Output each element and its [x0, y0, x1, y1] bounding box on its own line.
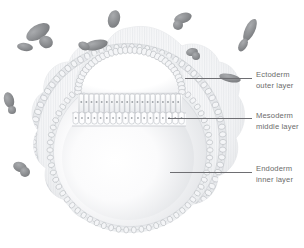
mesoderm-cell [145, 94, 150, 113]
mesoderm-cell [140, 94, 145, 113]
ectoderm-cell [83, 224, 91, 232]
ectoderm-cell [220, 139, 227, 144]
mesoderm-cell [115, 94, 120, 113]
mesoderm-cell [125, 94, 130, 113]
endoderm-columnar-cell [98, 112, 103, 124]
ectoderm-cell [36, 176, 44, 183]
migrating-cell [20, 167, 30, 177]
ectoderm-cell [144, 231, 150, 239]
endoderm-columnar-cell [117, 112, 122, 124]
endoderm-cell [47, 140, 54, 145]
endoderm-columnar-cell [73, 112, 78, 124]
endoderm-cell [47, 148, 53, 153]
mesoderm-columnar-band [78, 94, 182, 113]
mesoderm-cell [171, 94, 176, 113]
figure-canvas: Ectoderm outer layer Mesoderm middle lay… [0, 0, 304, 248]
ectoderm-cell [114, 233, 120, 240]
ectoderm-cell [151, 229, 158, 237]
ectoderm-cell [30, 131, 37, 137]
endoderm-cell [124, 227, 129, 233]
mesoderm-cell [79, 94, 84, 113]
endoderm-columnar-cell [160, 112, 165, 124]
endoderm-columnar-cell [85, 112, 90, 124]
ectoderm-cell [34, 169, 42, 176]
ectoderm-cell [30, 139, 37, 144]
ectoderm-cell [190, 206, 198, 215]
ectoderm-cell [32, 161, 40, 168]
mesoderm-cell [84, 94, 89, 113]
mesoderm-cell [150, 94, 155, 113]
ectoderm-cell [77, 220, 85, 228]
ectoderm-cell [53, 201, 62, 209]
endoderm-cell [139, 226, 145, 233]
endoderm-columnar-cell [79, 112, 84, 124]
ectoderm-cell [64, 211, 72, 220]
migrating-cell [17, 42, 34, 52]
ectoderm-cell [158, 227, 165, 235]
endoderm-columnar-cell [154, 112, 159, 124]
ectoderm-cell [121, 233, 126, 240]
endoderm-columnar-cell [110, 112, 115, 124]
mesoderm-cell [94, 94, 99, 113]
migrating-cell [8, 106, 16, 114]
endoderm-columnar-band [72, 112, 186, 126]
ectoderm-cell [219, 131, 226, 137]
endoderm-columnar-cell [135, 112, 140, 124]
ectoderm-cell [30, 154, 38, 160]
endoderm-cell [207, 148, 213, 153]
ectoderm-cell [48, 195, 57, 203]
endoderm-columnar-cell [166, 112, 171, 124]
mesoderm-cell [105, 94, 110, 113]
endoderm-columnar-cell [141, 112, 146, 124]
mesoderm-cell [120, 94, 125, 113]
ectoderm-cell [30, 147, 37, 153]
migrating-cell [106, 9, 122, 29]
ectoderm-cell [98, 229, 105, 237]
ectoderm-cell [129, 233, 134, 240]
embryo-cross-section-illustration [0, 0, 304, 248]
mesoderm-cell [156, 94, 161, 113]
endoderm-columnar-cell [129, 112, 134, 124]
migrating-cell [173, 20, 183, 30]
endoderm-cell [206, 155, 213, 160]
mesoderm-cell [110, 94, 115, 113]
mesoderm-cell [89, 94, 94, 113]
ectoderm-cell [58, 206, 66, 215]
ectoderm-cell [70, 216, 78, 225]
ectoderm-cell [184, 211, 192, 220]
migrating-cell [2, 91, 16, 109]
endoderm-columnar-cell [173, 112, 178, 124]
mesoderm-cell [176, 94, 181, 113]
mesoderm-cell [135, 94, 140, 113]
ectoderm-cell [219, 147, 226, 153]
migrating-cell [240, 17, 259, 43]
endoderm-columnar-cell [179, 112, 184, 124]
ectoderm-cell [91, 227, 98, 235]
endoderm-columnar-cell [92, 112, 97, 124]
ectoderm-cell [106, 231, 112, 239]
mesoderm-cell [166, 94, 171, 113]
mesoderm-cell [99, 94, 104, 113]
endoderm-cell [206, 140, 213, 145]
mesoderm-cell [161, 94, 166, 113]
endoderm-cell [47, 155, 54, 160]
endoderm-columnar-cell [123, 112, 128, 124]
endoderm-columnar-cell [148, 112, 153, 124]
ectoderm-cell [136, 233, 142, 240]
endoderm-cell [116, 226, 122, 233]
mesoderm-cell [130, 94, 135, 113]
migrating-cell [192, 52, 200, 60]
endoderm-columnar-cell [104, 112, 109, 124]
endoderm-cell [131, 227, 136, 233]
